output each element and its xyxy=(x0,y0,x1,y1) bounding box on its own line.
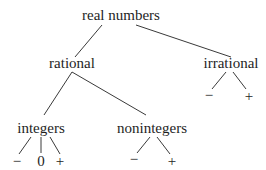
edge-irrational-neg xyxy=(212,72,226,89)
node-integers-positive: + xyxy=(56,154,64,169)
node-nonintegers-negative: − xyxy=(130,152,138,167)
edge-real-rational xyxy=(75,25,102,57)
edge-irrational-pos xyxy=(233,72,246,89)
number-classification-tree: real numbers rational irrational − + int… xyxy=(0,0,266,170)
edge-real-irrational xyxy=(136,25,231,57)
edge-rational-nonintegers xyxy=(72,72,146,115)
node-nonintegers: nonintegers xyxy=(117,121,187,136)
node-rational: rational xyxy=(49,56,95,71)
node-irrational-positive: + xyxy=(245,89,253,104)
tree-edges xyxy=(0,0,266,170)
edge-nonintegers-neg xyxy=(137,137,150,153)
edge-rational-integers xyxy=(44,72,72,115)
node-nonintegers-positive: + xyxy=(168,154,176,169)
node-real-numbers: real numbers xyxy=(82,8,160,23)
node-integers: integers xyxy=(17,121,64,136)
node-irrational-negative: − xyxy=(205,88,213,103)
edge-nonintegers-pos xyxy=(157,137,170,154)
node-integers-negative: − xyxy=(13,154,21,169)
node-integers-zero: 0 xyxy=(37,154,45,169)
edge-integers-neg xyxy=(19,137,31,154)
node-irrational: irrational xyxy=(204,56,259,71)
edge-integers-pos xyxy=(50,137,60,154)
